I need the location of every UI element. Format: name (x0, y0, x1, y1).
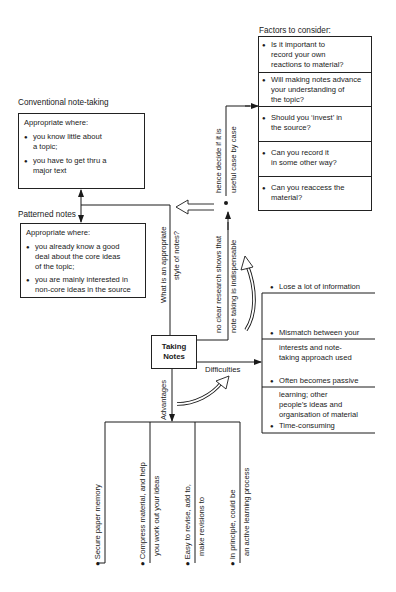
difficulty-continuation: organisation of material (279, 410, 358, 420)
patterned-line: deal about the core ideas (35, 252, 145, 262)
decide-line1: hence decide if it is (214, 128, 224, 193)
advantage-text: Secure paper memory (93, 484, 102, 559)
advantage-text: In principle, could be (228, 490, 237, 560)
patterned-item: you are mainly interested in non-core id… (23, 275, 145, 295)
factor-line: record your own (271, 50, 371, 60)
conventional-line: you know little about (33, 132, 141, 142)
factors-heading: Factors to consider: (259, 26, 331, 36)
conventional-line: you have to get thru a (33, 156, 141, 166)
factor-item: Will making notes advance your understan… (259, 75, 371, 107)
patterned-line: non-core ideas in the source (35, 285, 145, 295)
difficulty-item: Time-consuming (267, 421, 387, 431)
factor-line: the topic? (271, 95, 371, 105)
factors-box: Is it important to record your own react… (258, 36, 372, 211)
taking-notes-title-1: Taking (162, 342, 187, 352)
advantage-continuation: you work out your ideas (152, 476, 162, 556)
factor-line: in some other way? (271, 158, 371, 168)
factor-line: material? (271, 193, 371, 203)
factor-line: Can you record it (271, 148, 371, 158)
advantage-item: ● Secure paper memory (93, 484, 103, 566)
conventional-line: major text (33, 166, 141, 176)
style-question-line2: style of notes? (172, 231, 182, 280)
patterned-heading: Patterned notes (18, 210, 76, 220)
factor-item: Should you ‘invest’ in the source? (259, 113, 371, 142)
factor-line: Is it important to (271, 40, 371, 50)
factor-line: Can you reaccess the (271, 183, 371, 193)
conventional-heading: Conventional note-taking (18, 98, 109, 108)
difficulty-continuation: interests and note- (279, 343, 342, 353)
decide-line2: useful case by case (229, 126, 239, 193)
factor-item: Can you reaccess the material? (259, 183, 371, 208)
conventional-intro: Appropriate where: (24, 118, 88, 128)
advantage-text: Compress material, and help (138, 462, 147, 559)
conventional-item: you know little about a topic; (21, 132, 141, 152)
factor-item: Is it important to record your own react… (259, 40, 371, 73)
patterned-line: you are mainly interested in (35, 275, 145, 285)
patterned-line: of the topic; (35, 262, 145, 272)
factor-item: Can you record it in some other way? (259, 148, 371, 177)
advantage-item: ● Easy to revise, add to, (183, 484, 193, 566)
difficulty-continuation: people’s ideas and (279, 400, 342, 410)
style-question-line1: What is an appropriate (159, 227, 169, 303)
factor-line: reactions to material? (271, 60, 371, 70)
patterned-item: you already know a good deal about the c… (23, 242, 145, 272)
research-line1: no clear research shows that (214, 236, 224, 333)
conventional-item: you have to get thru a major text (21, 156, 141, 176)
factor-line: Should you ‘invest’ in (271, 113, 371, 123)
difficulty-item: Often becomes passive (267, 376, 387, 386)
patterned-box: Appropriate where: you already know a go… (20, 223, 146, 298)
taking-notes-node: Taking Notes (151, 335, 197, 369)
advantages-label: Advantages (159, 380, 169, 420)
advantage-text: Easy to revise, add to, (183, 484, 192, 559)
difficulty-continuation: taking approach used (279, 353, 352, 363)
conventional-line: a topic; (33, 142, 141, 152)
advantage-item: ● Compress material, and help (138, 462, 148, 566)
taking-notes-title-2: Notes (162, 352, 187, 362)
factor-line: Will making notes advance (271, 75, 371, 85)
conventional-box: Appropriate where: you know little about… (18, 113, 145, 189)
factor-line: your understanding of (271, 85, 371, 95)
difficulty-item: Mismatch between your (267, 328, 387, 338)
advantage-item: ● In principle, could be (228, 490, 238, 566)
patterned-intro: Appropriate where: (26, 228, 90, 238)
difficulties-label: Difficulties (205, 365, 240, 375)
advantage-continuation: make revisions to (197, 497, 207, 556)
difficulty-item: Lose a lot of information (267, 282, 387, 292)
research-line2: note taking is indispensable (229, 240, 239, 333)
difficulty-continuation: learning; other (279, 390, 328, 400)
patterned-line: you already know a good (35, 242, 145, 252)
factor-line: the source? (271, 123, 371, 133)
advantage-continuation: an active learning process (242, 468, 252, 556)
